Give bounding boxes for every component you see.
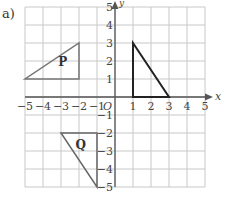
- x-tick-label: 2: [148, 100, 155, 113]
- y-tick-label: −5: [97, 181, 113, 194]
- triangle-q-label: Q: [76, 138, 86, 152]
- y-tick-label: 5: [106, 1, 113, 14]
- coordinate-diagram: a) −5−4−3−2−11234554321−1−2−3−4−5OxyPQ: [0, 0, 239, 197]
- y-axis-label: y: [118, 0, 125, 8]
- x-tick-label: 5: [202, 100, 209, 113]
- y-tick-label: 4: [106, 19, 113, 32]
- y-tick-label: −2: [97, 127, 113, 140]
- x-tick-label: 3: [166, 100, 173, 113]
- x-tick-label: 1: [130, 100, 137, 113]
- y-tick-label: 3: [106, 37, 113, 50]
- x-tick-label: −2: [71, 100, 87, 113]
- y-tick-label: 2: [106, 55, 113, 68]
- x-axis-label: x: [215, 90, 222, 103]
- coordinate-grid: −5−4−3−2−11234554321−1−2−3−4−5OxyPQ: [0, 0, 239, 197]
- x-tick-label: 4: [184, 100, 191, 113]
- x-tick-label: −3: [53, 100, 69, 113]
- y-tick-label: 1: [106, 73, 113, 86]
- y-tick-label: −4: [97, 163, 113, 176]
- x-tick-label: −5: [17, 100, 33, 113]
- triangle-p-label: P: [58, 55, 67, 69]
- x-tick-label: −4: [35, 100, 51, 113]
- y-tick-label: −3: [97, 145, 113, 158]
- origin-label: O: [103, 100, 112, 113]
